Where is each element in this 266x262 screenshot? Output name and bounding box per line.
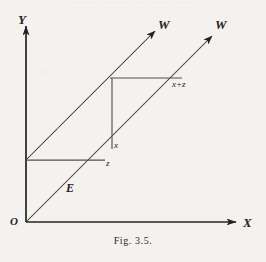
y-axis-label: Y [18,13,26,26]
x-axis-label: X [243,216,252,229]
point-z-label: z [106,159,110,168]
figure-caption: Fig. 3.5. [0,235,266,246]
figure-3-5: ······· ······ ···· ······ ····· [0,0,266,262]
point-x-label: x [114,141,118,150]
origin-label: O [10,216,18,227]
cone-boundary-lower-line [26,36,212,222]
cone-boundary-upper-line [26,31,155,160]
cone-boundary-lower-label: W [215,18,227,31]
figure-drawing-canvas [0,0,266,262]
point-x-plus-z-label: x+z [172,80,186,89]
cone-boundary-upper-label: W [158,18,170,31]
ray-e-label: E [66,182,74,194]
